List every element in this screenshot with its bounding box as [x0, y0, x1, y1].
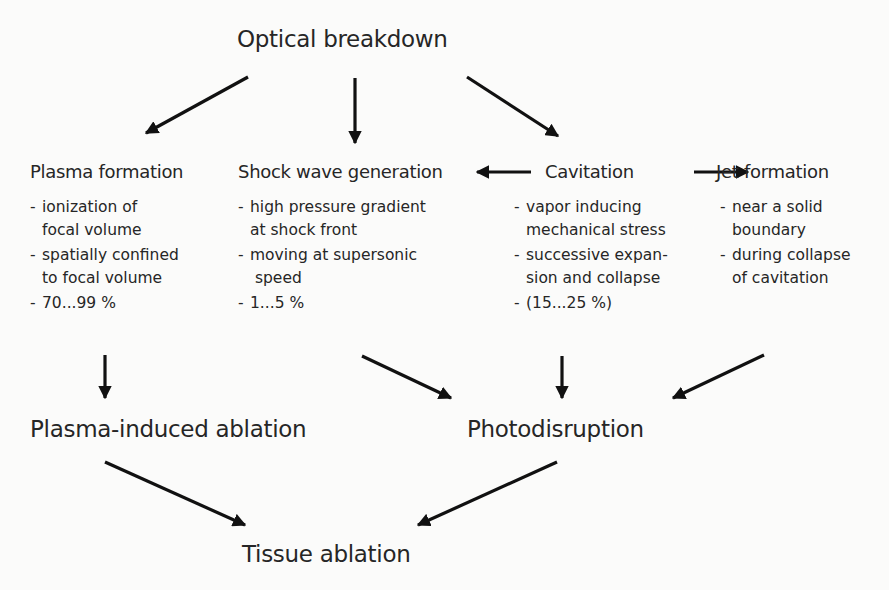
arrow-jet-to-photodisruption: [673, 355, 764, 398]
arrow-shock-to-photodisruption: [362, 356, 451, 398]
root-node: Optical breakdown: [237, 26, 448, 52]
arrow-ablation-to-tissue: [105, 462, 245, 525]
detail-item: successive expan- sion and collapse: [514, 244, 668, 290]
shock-wave-details: high pressure gradient at shock front mo…: [238, 196, 426, 315]
share-percent: 1...5 %: [238, 292, 426, 315]
outcome-tissue-ablation: Tissue ablation: [242, 541, 410, 567]
share-percent: 70...99 %: [30, 292, 179, 315]
effect-photodisruption: Photodisruption: [467, 416, 644, 442]
detail-item: moving at supersonic speed: [238, 244, 426, 290]
detail-item: ionization of focal volume: [30, 196, 179, 242]
detail-item: high pressure gradient at shock front: [238, 196, 426, 242]
detail-item: near a solid boundary: [720, 196, 851, 242]
arrow-root-to-plasma: [146, 77, 248, 133]
effect-plasma-induced-ablation: Plasma-induced ablation: [30, 416, 306, 442]
mechanism-jet-formation: Jet formation: [716, 161, 829, 182]
cavitation-details: vapor inducing mechanical stress success…: [514, 196, 668, 315]
share-percent: (15...25 %): [514, 292, 668, 315]
mechanism-plasma-formation: Plasma formation: [30, 161, 183, 182]
detail-item: vapor inducing mechanical stress: [514, 196, 668, 242]
plasma-formation-details: ionization of focal volume spatially con…: [30, 196, 179, 315]
mechanism-shock-wave: Shock wave generation: [238, 161, 443, 182]
jet-formation-details: near a solid boundary during collapse of…: [720, 196, 851, 290]
arrow-root-to-cavitation: [467, 77, 558, 136]
detail-item: during collapse of cavitation: [720, 244, 851, 290]
arrow-photodisruption-to-tissue: [418, 462, 557, 525]
detail-item: spatially confined to focal volume: [30, 244, 179, 290]
mechanism-cavitation: Cavitation: [545, 161, 634, 182]
